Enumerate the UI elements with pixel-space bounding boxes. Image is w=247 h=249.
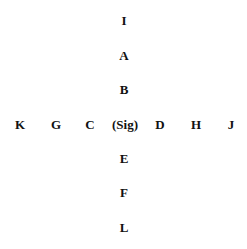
label-g: G — [51, 118, 61, 131]
label-k: K — [15, 118, 25, 131]
label-e: E — [120, 152, 129, 165]
label-i: I — [121, 14, 126, 27]
label-f: F — [120, 186, 128, 199]
label-a: A — [119, 49, 128, 62]
label-c: C — [85, 118, 94, 131]
label-l: L — [120, 221, 129, 234]
label-h: H — [191, 118, 201, 131]
label-sig-center: (Sig) — [112, 118, 138, 131]
label-j: J — [228, 118, 235, 131]
label-d: D — [155, 118, 164, 131]
label-b: B — [120, 83, 129, 96]
